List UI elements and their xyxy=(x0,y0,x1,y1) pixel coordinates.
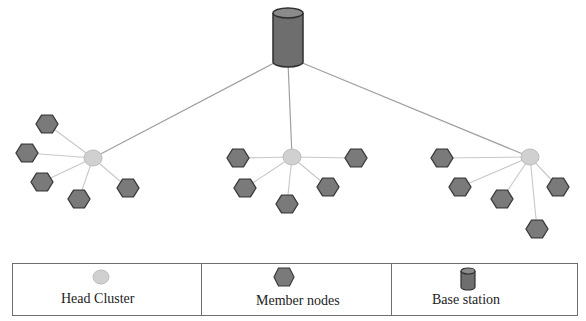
head-cluster-circle-icon xyxy=(283,149,301,165)
member-node-hexagon-icon xyxy=(36,115,58,133)
member-nodes xyxy=(16,115,569,238)
member-node-hexagon-icon xyxy=(227,149,249,167)
head-cluster-circle-icon xyxy=(84,150,102,166)
member-node-hexagon-icon xyxy=(16,144,38,162)
member-node-hexagon-icon xyxy=(345,149,367,167)
legend-label-base-station: Base station xyxy=(432,292,500,308)
link-head-to-base-3 xyxy=(300,62,530,157)
member-node-hexagon-icon xyxy=(491,190,513,208)
base-station-links xyxy=(93,62,530,158)
member-node-hexagon-icon xyxy=(31,173,53,191)
member-node-hexagon-icon xyxy=(117,179,139,197)
legend-item-base-station: Base station xyxy=(391,264,577,315)
head-cluster-circle-icon xyxy=(92,269,110,285)
member-node-hexagon-icon xyxy=(317,178,339,196)
link-head-to-base-2 xyxy=(288,62,292,157)
member-node-hexagon-icon xyxy=(547,178,569,196)
member-node-hexagon-icon xyxy=(273,267,295,287)
legend-label-head-cluster: Head Cluster xyxy=(61,291,134,307)
member-node-hexagon-icon xyxy=(68,190,90,208)
head-cluster-circle-icon xyxy=(521,149,539,165)
link-member-3-5 xyxy=(530,157,537,229)
member-node-hexagon-icon xyxy=(276,195,298,213)
legend-label-member-nodes: Member nodes xyxy=(256,293,340,309)
link-head-to-base-1 xyxy=(93,62,276,158)
legend: Head Cluster Member nodes Base station xyxy=(12,263,578,316)
base-station-cylinder-icon xyxy=(459,267,477,291)
link-member-3-1 xyxy=(442,157,530,158)
member-node-hexagon-icon xyxy=(431,149,453,167)
member-node-hexagon-icon xyxy=(449,178,471,196)
legend-item-member-nodes: Member nodes xyxy=(201,264,391,315)
member-node-hexagon-icon xyxy=(526,220,548,238)
member-node-hexagon-icon xyxy=(234,179,256,197)
base-station-cylinder-icon xyxy=(273,8,303,67)
legend-item-head-cluster: Head Cluster xyxy=(13,264,201,315)
